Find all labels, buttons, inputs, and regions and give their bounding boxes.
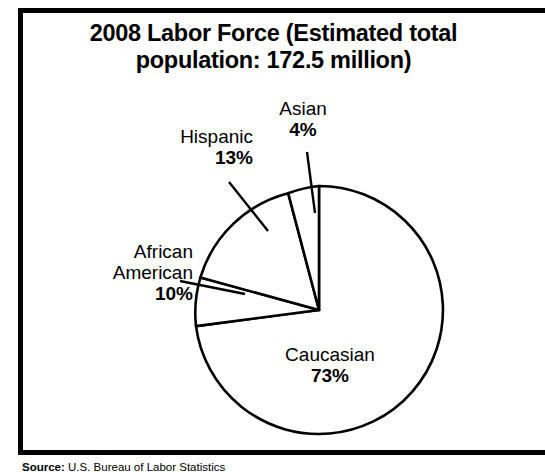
pie-label-asian: Asian 4% — [243, 99, 363, 141]
pie-label-asian-value: 4% — [243, 120, 363, 141]
pie-label-hispanic-value: 13% — [108, 148, 253, 169]
pie-label-african-american-value: 10% — [48, 284, 193, 305]
pie-label-african-american-name-line-2: American — [48, 263, 193, 284]
pie-label-hispanic: Hispanic 13% — [108, 127, 253, 169]
pie-label-asian-name: Asian — [243, 99, 363, 120]
pie-label-caucasian: Caucasian 73% — [255, 345, 405, 387]
chart-source-text: U.S. Bureau of Labor Statistics — [65, 461, 225, 472]
pie-label-caucasian-value: 73% — [255, 366, 405, 387]
chart-source: Source: U.S. Bureau of Labor Statistics — [22, 461, 225, 472]
pie-label-hispanic-name: Hispanic — [108, 127, 253, 148]
chart-source-label: Source: — [22, 461, 65, 472]
pie-label-african-american-name-line-1: African — [48, 242, 193, 263]
pie-label-african-american: African American 10% — [48, 242, 193, 305]
pie-label-caucasian-name: Caucasian — [255, 345, 405, 366]
